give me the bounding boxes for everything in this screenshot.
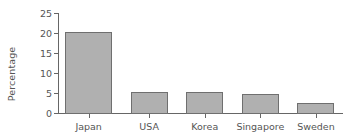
y-tick-mark bbox=[54, 113, 58, 114]
y-tick-label: 10 bbox=[40, 68, 52, 79]
plot-area: 0510152025 JapanUSAKoreaSingaporeSweden bbox=[58, 13, 343, 114]
y-tick-label: 25 bbox=[40, 8, 52, 19]
y-tick-label: 5 bbox=[46, 88, 52, 99]
x-tick-label: Sweden bbox=[297, 121, 335, 132]
y-tick-mark bbox=[54, 73, 58, 74]
bar-chart-figure: Percentage 0510152025 JapanUSAKoreaSinga… bbox=[0, 0, 353, 140]
bar-japan bbox=[65, 32, 112, 114]
bar-singapore bbox=[242, 94, 279, 114]
y-axis-spine bbox=[58, 13, 59, 114]
y-tick-mark bbox=[54, 13, 58, 14]
x-tick-label: Japan bbox=[75, 121, 102, 132]
y-axis-title: Percentage bbox=[0, 4, 22, 140]
y-tick-mark bbox=[54, 53, 58, 54]
bar-sweden bbox=[297, 103, 334, 114]
bar-usa bbox=[131, 92, 168, 114]
y-tick-label: 15 bbox=[40, 48, 52, 59]
x-tick-mark bbox=[316, 114, 317, 118]
x-tick-mark bbox=[149, 114, 150, 118]
y-tick-label: 20 bbox=[40, 28, 52, 39]
x-tick-label: Korea bbox=[191, 121, 218, 132]
y-tick-label: 0 bbox=[46, 108, 52, 119]
x-tick-mark bbox=[260, 114, 261, 118]
x-tick-mark bbox=[89, 114, 90, 118]
y-tick-mark bbox=[54, 93, 58, 94]
x-tick-mark bbox=[205, 114, 206, 118]
x-tick-label: Singapore bbox=[236, 121, 284, 132]
x-tick-label: USA bbox=[139, 121, 159, 132]
bar-korea bbox=[186, 92, 223, 114]
y-tick-mark bbox=[54, 33, 58, 34]
